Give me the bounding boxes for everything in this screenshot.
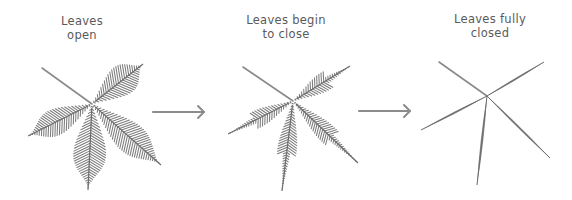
leaf <box>28 105 90 137</box>
leaf <box>295 103 358 163</box>
leaf <box>94 64 143 103</box>
mimosa-leaf-closing-diagram: Leaves open Leaves begin to close Leaves… <box>0 0 572 200</box>
label-line-1: Leaves fully <box>454 12 526 26</box>
label-line-2: to close <box>246 27 326 41</box>
plant-begin <box>228 66 358 191</box>
stem <box>243 67 293 101</box>
leaf <box>74 107 106 190</box>
plant-open <box>28 64 161 190</box>
leaf <box>295 66 350 100</box>
plant-closed <box>421 62 550 185</box>
stage-label-leaves-fully-closed: Leaves fully closed <box>454 12 526 40</box>
arrow-right-icon <box>359 105 410 117</box>
leaf <box>477 96 487 185</box>
stem <box>42 68 92 104</box>
leaf <box>487 62 544 96</box>
leaf <box>278 104 297 191</box>
leaf <box>228 102 291 134</box>
label-line-1: Leaves begin <box>246 13 326 27</box>
label-line-2: closed <box>454 26 526 40</box>
label-line-2: open <box>61 28 103 42</box>
stem <box>439 62 487 96</box>
arrow-right-icon <box>153 106 204 118</box>
stage-label-leaves-begin-to-close: Leaves begin to close <box>246 13 326 41</box>
stage-label-leaves-open: Leaves open <box>61 14 103 42</box>
label-line-1: Leaves <box>61 14 103 28</box>
leaf <box>421 96 487 130</box>
leaf <box>94 105 161 165</box>
leaf <box>487 96 550 158</box>
